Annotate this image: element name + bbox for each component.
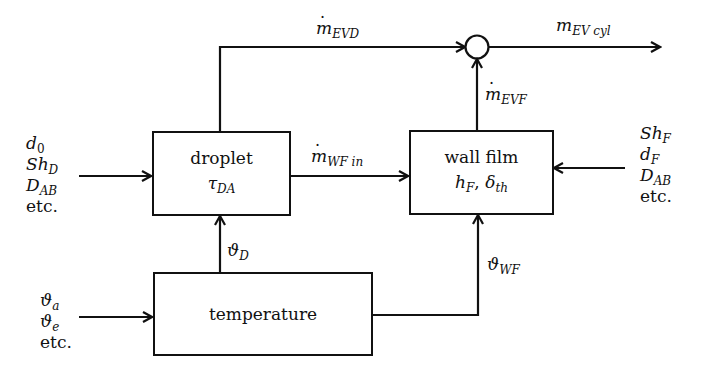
temperature-input-theta-a: ϑa	[40, 290, 72, 311]
temperature-block-title: temperature	[209, 302, 317, 326]
wire-theta-wf	[372, 215, 478, 315]
droplet-block-param: τDA	[208, 170, 236, 202]
wall-film-input-d-f: dF	[640, 144, 672, 165]
label-theta-d: ϑD	[227, 240, 249, 263]
droplet-input-d0: d0	[26, 133, 58, 154]
wall-film-input-sh-f: ShF	[640, 123, 672, 144]
droplet-input-etc: etc.	[26, 196, 58, 217]
wall-film-input-etc: etc.	[640, 186, 672, 207]
label-m-evd: mEVD	[316, 18, 359, 41]
temperature-input-theta-e: ϑe	[40, 311, 72, 332]
droplet-block-title: droplet	[190, 146, 252, 170]
wire-m-evd	[220, 47, 465, 131]
droplet-block: droplet τDA	[152, 131, 291, 216]
droplet-input-sh-d: ShD	[26, 154, 58, 175]
wall-film-input-list: ShF dF DAB etc.	[640, 123, 672, 207]
temperature-input-list: ϑa ϑe etc.	[40, 290, 72, 353]
droplet-input-d-ab: DAB	[26, 175, 58, 196]
label-m-ev-cyl: mEV cyl	[556, 15, 611, 38]
temperature-input-etc: etc.	[40, 332, 72, 353]
label-m-wf-in: mWF in	[311, 146, 363, 169]
wall-film-block-title: wall film	[445, 145, 519, 169]
wall-film-input-d-ab: DAB	[640, 165, 672, 186]
wall-film-block-params: hF, δth	[455, 169, 508, 201]
droplet-input-list: d0 ShD DAB etc.	[26, 133, 58, 217]
wall-film-block: wall film hF, δth	[409, 130, 554, 215]
label-theta-wf: ϑWF	[487, 254, 520, 277]
label-m-evf: mEVF	[485, 84, 527, 107]
temperature-block: temperature	[153, 272, 373, 356]
summing-junction	[466, 36, 489, 59]
